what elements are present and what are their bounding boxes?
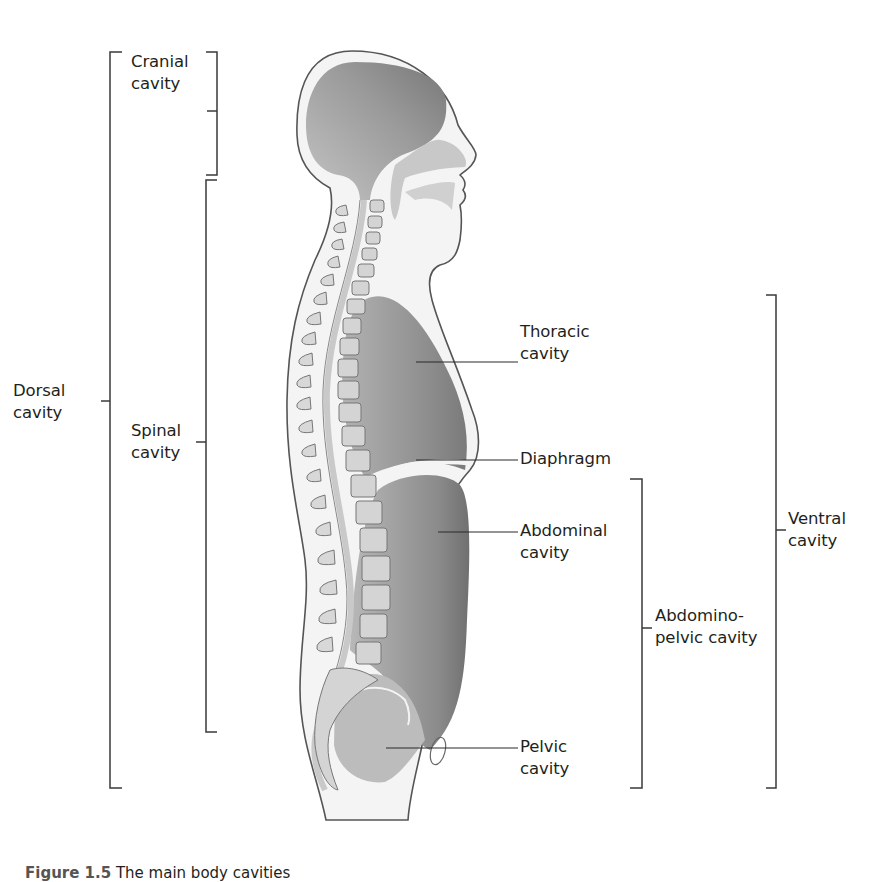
label-line: Thoracic	[520, 321, 589, 343]
label-line: cavity	[131, 442, 181, 464]
label-line: cavity	[520, 758, 569, 780]
label-line: Abdominal	[520, 520, 607, 542]
label-line: Spinal	[131, 420, 181, 442]
ventral-bracket	[766, 295, 776, 788]
label-line: Cranial	[131, 51, 188, 73]
label-thoracic-cavity: Thoracic cavity	[520, 321, 589, 365]
label-line: Diaphragm	[520, 448, 611, 470]
label-spinal-cavity: Spinal cavity	[131, 420, 181, 464]
label-line: Ventral	[788, 508, 846, 530]
label-line: cavity	[520, 542, 607, 564]
label-line: cavity	[788, 530, 846, 552]
dorsal-bracket	[110, 52, 122, 788]
label-line: Dorsal	[13, 380, 65, 402]
label-line: Abdomino-	[655, 605, 757, 627]
label-line: cavity	[13, 402, 65, 424]
caption-text: The main body cavities	[116, 864, 290, 882]
figure-caption: Figure 1.5 The main body cavities	[25, 864, 290, 882]
label-abdominal-cavity: Abdominal cavity	[520, 520, 607, 564]
caption-number: Figure 1.5	[25, 864, 111, 882]
label-line: pelvic cavity	[655, 627, 757, 649]
label-cranial-cavity: Cranial cavity	[131, 51, 188, 95]
label-dorsal-cavity: Dorsal cavity	[13, 380, 65, 424]
label-pelvic-cavity: Pelvic cavity	[520, 736, 569, 780]
label-abdominopelvic-cavity: Abdomino- pelvic cavity	[655, 605, 757, 649]
label-line: cavity	[520, 343, 589, 365]
abdominopelvic-bracket	[630, 479, 642, 788]
spinal-bracket	[206, 180, 217, 732]
label-line: Pelvic	[520, 736, 569, 758]
label-diaphragm: Diaphragm	[520, 448, 611, 470]
label-line: cavity	[131, 73, 188, 95]
cranial-bracket	[206, 52, 217, 175]
label-ventral-cavity: Ventral cavity	[788, 508, 846, 552]
